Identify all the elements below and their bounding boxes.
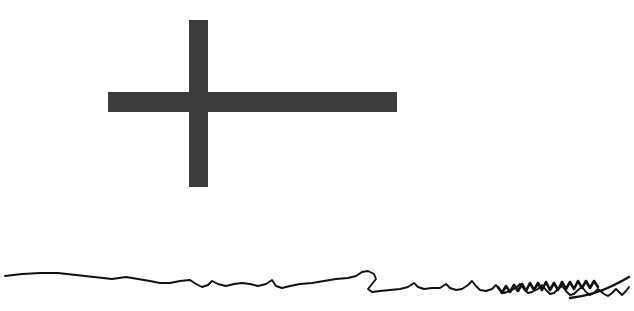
sketch-canvas[interactable] [0,0,634,311]
sketch-surface[interactable] [0,0,634,311]
cross-horizontal-bar [108,92,397,112]
canvas-background [0,0,634,311]
